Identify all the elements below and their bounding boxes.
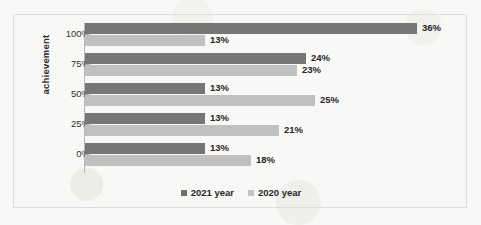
bar-rect [85, 143, 205, 154]
y-axis-tick-label: 0% [30, 148, 90, 159]
bar-rect [85, 113, 205, 124]
bar-value-label: 25% [320, 94, 339, 106]
legend-swatch-icon [181, 190, 187, 196]
bar-rect [85, 83, 205, 94]
bar-value-label: 36% [422, 22, 441, 34]
legend-label: 2020 year [258, 187, 301, 198]
chart-border-frame: achievement 100% 36% 13% 75% [13, 14, 467, 208]
bar-rect [85, 35, 205, 46]
category-group: 25% 13% 21% [84, 113, 464, 136]
legend-item-2020-year[interactable]: 2020 year [248, 187, 301, 198]
bar-rect [85, 155, 251, 166]
bar-rect [85, 65, 297, 76]
bar-rect [85, 23, 417, 34]
category-group: 50% 13% 25% [84, 83, 464, 106]
category-group: 75% 24% 23% [84, 53, 464, 76]
bar-value-label: 13% [210, 34, 229, 46]
plot-area: 100% 36% 13% 75% 24% 23 [84, 23, 464, 173]
chart-legend: 2021 year 2020 year [14, 187, 468, 198]
bar-value-label: 18% [256, 154, 275, 166]
y-axis-tick-label: 50% [30, 88, 90, 99]
category-group: 0% 13% 18% [84, 143, 464, 166]
bar-value-label: 13% [210, 112, 229, 124]
y-axis-tick-label: 75% [30, 58, 90, 69]
bar-rect [85, 95, 315, 106]
bar-value-label: 23% [302, 64, 321, 76]
bar-value-label: 13% [210, 142, 229, 154]
y-axis-tick-label: 100% [30, 28, 90, 39]
legend-item-2021-year[interactable]: 2021 year [181, 187, 234, 198]
bar-rect [85, 125, 279, 136]
legend-swatch-icon [248, 190, 254, 196]
bar-value-label: 13% [210, 82, 229, 94]
legend-label: 2021 year [191, 187, 234, 198]
category-group: 100% 36% 13% [84, 23, 464, 46]
bar-chart-figure: achievement 100% 36% 13% 75% [0, 0, 481, 225]
bar-value-label: 21% [284, 124, 303, 136]
bar-rect [85, 53, 306, 64]
y-axis-tick-label: 25% [30, 118, 90, 129]
bar-value-label: 24% [311, 52, 330, 64]
